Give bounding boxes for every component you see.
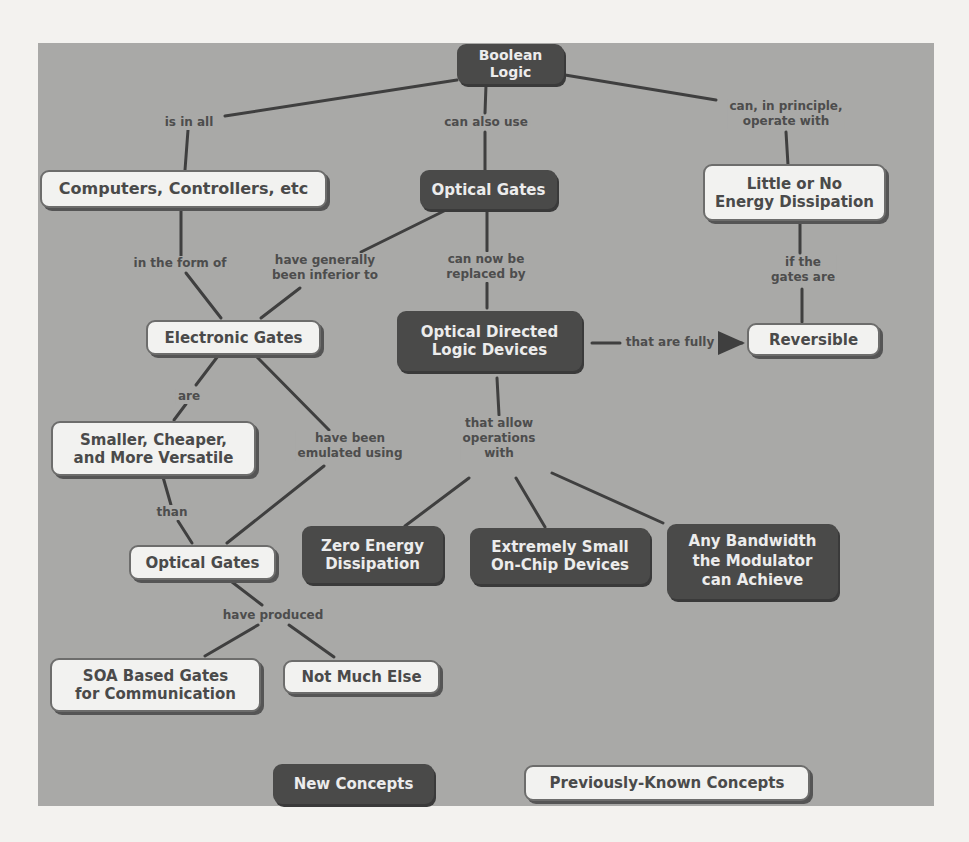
- link-label-have-been-emulated: have been emulated using: [296, 431, 405, 461]
- node-boolean-logic[interactable]: Boolean Logic: [457, 44, 564, 84]
- link-label-that-are-fully: that are fully: [624, 335, 716, 350]
- node-computers-controllers[interactable]: Computers, Controllers, etc: [40, 170, 327, 208]
- node-extremely-small-devices[interactable]: Extremely Small On-Chip Devices: [470, 528, 650, 584]
- legend-previously-known-concepts: Previously-Known Concepts: [524, 765, 810, 801]
- link-label-is-in-all: is in all: [163, 115, 216, 130]
- link-label-in-the-form-of: in the form of: [132, 256, 229, 271]
- link-label-that-allow-operations: that allow operations with: [461, 416, 538, 461]
- node-optical-gates-bottom[interactable]: Optical Gates: [129, 545, 276, 580]
- node-zero-energy-dissipation[interactable]: Zero Energy Dissipation: [302, 526, 443, 583]
- node-soa-based-gates[interactable]: SOA Based Gates for Communication: [50, 658, 261, 712]
- legend-new-concepts: New Concepts: [273, 764, 434, 804]
- link-label-can-in-principle: can, in principle, operate with: [727, 99, 844, 129]
- node-optical-directed-logic-devices[interactable]: Optical Directed Logic Devices: [397, 311, 582, 371]
- link-label-can-also-use: can also use: [442, 115, 530, 130]
- node-reversible[interactable]: Reversible: [747, 323, 880, 356]
- link-label-can-now-be-replaced: can now be replaced by: [444, 252, 527, 282]
- node-any-bandwidth[interactable]: Any Bandwidth the Modulator can Achieve: [667, 524, 838, 599]
- link-label-are: are: [176, 389, 202, 404]
- node-not-much-else[interactable]: Not Much Else: [283, 660, 440, 694]
- node-optical-gates-top[interactable]: Optical Gates: [420, 170, 557, 209]
- link-label-have-generally-been-inferior: have generally been inferior to: [270, 253, 380, 283]
- link-label-if-the-gates-are: if the gates are: [769, 255, 837, 285]
- node-little-or-no-energy[interactable]: Little or No Energy Dissipation: [703, 164, 886, 221]
- node-electronic-gates[interactable]: Electronic Gates: [146, 320, 321, 355]
- node-smaller-cheaper-versatile[interactable]: Smaller, Cheaper, and More Versatile: [51, 421, 256, 476]
- link-label-than: than: [155, 505, 190, 520]
- link-label-have-produced: have produced: [221, 608, 326, 623]
